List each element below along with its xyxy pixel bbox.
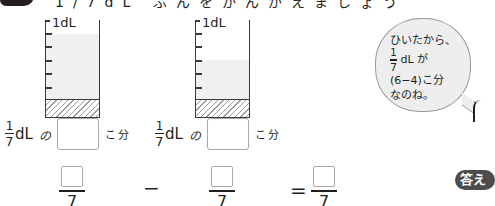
tick <box>46 20 50 22</box>
numerator-answer-box-2[interactable] <box>211 166 233 187</box>
character-illustration-edge <box>473 100 481 122</box>
problem-instruction-clipped: 1/7dL ぶんをかんがえましょう <box>55 0 406 11</box>
beaker-1: 1dL <box>45 20 100 118</box>
unit-label: dL <box>165 125 183 143</box>
unit-count-row-2: 1 7 dL の こ分 <box>155 120 281 148</box>
equation-term-2: 7 <box>209 166 235 206</box>
tick <box>196 46 202 48</box>
bubble-line-4: なのね。 <box>390 88 470 103</box>
beaker-1-hatched-base <box>46 99 99 117</box>
tick <box>196 33 202 35</box>
count-suffix: こ分 <box>105 126 131 142</box>
unit-fraction: 1 7 <box>155 120 164 149</box>
tick <box>46 46 52 48</box>
particle: の <box>189 126 201 143</box>
bubble-line-1: ひいたから、 <box>390 33 470 48</box>
problem-number-badge <box>0 0 34 6</box>
tick <box>196 60 202 62</box>
speech-bubble: ひいたから、 1 7 dL が (6−4)こ分 なのね。 <box>375 18 471 112</box>
tick <box>196 73 202 75</box>
beaker-2-hatched-base <box>196 99 249 117</box>
equation-term-1: 7 <box>59 166 85 206</box>
bubble-fraction: 1 7 <box>390 48 397 73</box>
particle: の <box>39 126 51 143</box>
count-suffix: こ分 <box>255 126 281 142</box>
beaker-1-liquid <box>46 34 99 99</box>
count-answer-box-1[interactable] <box>57 118 99 150</box>
unit-label: dL <box>15 125 33 143</box>
beaker-2-label: 1dL <box>201 16 227 29</box>
tick <box>196 20 200 22</box>
tick <box>46 87 52 89</box>
unit-count-row-1: 1 7 dL の こ分 <box>5 120 131 148</box>
beaker-2-liquid <box>196 60 249 99</box>
minus-operator: − <box>143 178 160 198</box>
unit-fraction: 1 7 <box>5 120 14 149</box>
bubble-line-2: 1 7 dL が <box>390 48 470 73</box>
numerator-answer-box-1[interactable] <box>61 166 83 187</box>
tick <box>46 73 52 75</box>
equals-operator: = <box>290 180 307 200</box>
beaker-2: 1dL <box>195 20 250 118</box>
tick <box>196 87 202 89</box>
tick <box>46 60 52 62</box>
equation-term-3: 7 <box>311 166 337 206</box>
bubble-line-3: (6−4)こ分 <box>390 73 470 88</box>
beaker-1-label: 1dL <box>51 16 77 29</box>
count-answer-box-2[interactable] <box>207 118 249 150</box>
answer-badge: 答え <box>455 170 495 190</box>
numerator-answer-box-3[interactable] <box>313 166 335 187</box>
tick <box>46 33 52 35</box>
